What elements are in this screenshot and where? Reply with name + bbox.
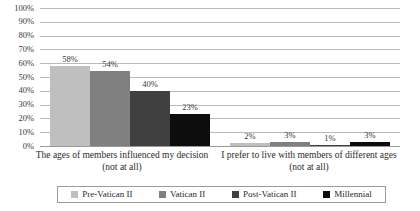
y-axis-tick-label: 80% [0,31,34,40]
y-axis-tick-label: 40% [0,86,34,95]
plot-area: 58%54%40%23%2%3%1%3% [40,8,400,146]
bar [350,142,390,146]
bar-value-label: 23% [170,103,210,112]
bar-value-label: 1% [310,134,350,143]
y-axis-tick-label: 90% [0,17,34,26]
legend-entry[interactable]: Post-Vatican II [232,190,297,199]
legend-entry[interactable]: Vatican II [159,190,205,199]
legend-label: Pre-Vatican II [82,190,132,199]
gridline [40,36,400,37]
bar [130,91,170,146]
y-axis-tick-label: 20% [0,114,34,123]
bar-value-label: 3% [350,131,390,140]
category-label-1: I prefer to live with members of differe… [214,150,404,173]
bar-value-label: 40% [130,80,170,89]
legend-label: Vatican II [170,190,205,199]
axis-baseline [40,146,400,147]
y-axis-tick-label: 100% [0,4,34,13]
bar [50,66,90,146]
y-axis-tick-labels: 100%90%80%70%60%50%40%30%20%10%0% [0,8,36,146]
category-label-0: The ages of members influenced my decisi… [34,150,210,173]
y-axis-tick-label: 10% [0,128,34,137]
bar-value-label: 3% [270,131,310,140]
legend-entry[interactable]: Millennial [323,190,372,199]
y-axis-tick-label: 30% [0,100,34,109]
legend-swatch-icon [159,191,166,198]
bar-value-label: 2% [230,132,270,141]
bar [310,145,350,147]
y-axis-tick-label: 70% [0,45,34,54]
gridline [40,49,400,50]
legend-label: Millennial [334,190,372,199]
legend-swatch-icon [323,191,330,198]
bar-value-label: 54% [90,60,130,69]
gridline [40,8,400,9]
legend-swatch-icon [232,191,239,198]
legend-entry[interactable]: Pre-Vatican II [71,190,132,199]
gridline [40,22,400,23]
bar-chart: 100%90%80%70%60%50%40%30%20%10%0% 58%54%… [0,0,420,211]
bar [230,143,270,146]
chart-legend: Pre-Vatican IIVatican IIPost-Vatican IIM… [57,186,386,203]
bar [90,71,130,146]
legend-label: Post-Vatican II [243,190,297,199]
bar [270,142,310,146]
bar-value-label: 58% [50,55,90,64]
bar [170,114,210,146]
legend-swatch-icon [71,191,78,198]
y-axis-tick-label: 0% [0,142,34,151]
y-axis-tick-label: 50% [0,73,34,82]
y-axis-tick-label: 60% [0,59,34,68]
